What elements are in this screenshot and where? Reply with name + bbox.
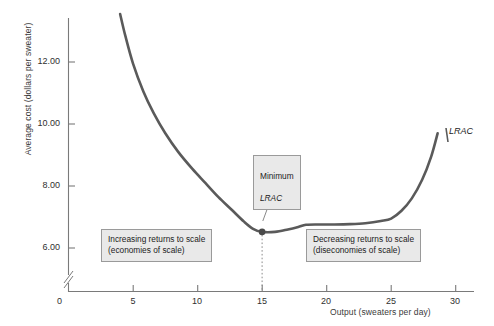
x-tick-label-15: 15 [251, 296, 273, 306]
minimum-lrac-callout: Minimum LRAC [253, 155, 301, 210]
minimum-callout-line1: Minimum [260, 171, 294, 181]
decreasing-returns-callout: Decreasing returns to scale (diseconomie… [306, 229, 421, 262]
x-axis-title: Output (sweaters per day) [330, 307, 431, 317]
lrac-curve-label: LRAC [449, 126, 473, 136]
x-tick-label-20: 20 [315, 296, 337, 306]
x-tick-label-30: 30 [444, 296, 466, 306]
chart-figure: Average cost (dollars per sweater) Outpu… [0, 0, 494, 326]
minimum-callout-line2: LRAC [260, 193, 282, 203]
y-tick-label-8: 8.00 [26, 180, 60, 190]
lrac-cost-curve-plot [0, 0, 494, 326]
y-tick-label-12: 12.00 [26, 56, 60, 66]
minimum-point-marker [259, 229, 266, 236]
curve-label-tick [446, 128, 448, 142]
x-tick-label-10: 10 [186, 296, 208, 306]
y-axis-ticks [69, 62, 76, 248]
increasing-returns-callout: Increasing returns to scale (economies o… [101, 229, 212, 262]
origin-label: 0 [57, 296, 62, 306]
y-axis-title: Average cost (dollars per sweater) [23, 4, 33, 174]
y-tick-label-10: 10.00 [26, 118, 60, 128]
x-tick-label-25: 25 [380, 296, 402, 306]
y-tick-label-6: 6.00 [26, 242, 60, 252]
x-axis-ticks [133, 285, 456, 292]
x-tick-label-5: 5 [122, 296, 144, 306]
